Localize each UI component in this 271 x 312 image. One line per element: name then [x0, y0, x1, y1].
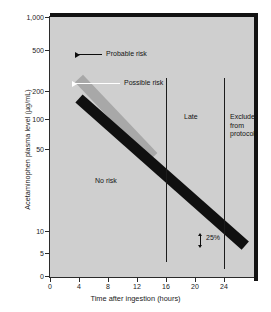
x-tick-mark [108, 278, 109, 282]
probable-risk-band [75, 94, 249, 249]
x-tick-label: 20 [191, 283, 199, 290]
x-tick-label: 12 [133, 283, 141, 290]
no-risk-label: No risk [95, 177, 117, 186]
x-tick-mark [166, 278, 167, 282]
plot-frame-right [254, 13, 258, 281]
y-tick-label: 5 [40, 250, 44, 257]
y-tick-label: 1,000 [26, 14, 44, 21]
y-tick-label-group: 1,000 500 200 100 50 10 5 0 [0, 0, 44, 312]
late-label: Late [184, 113, 198, 122]
x-tick-mark [224, 278, 225, 282]
possible-risk-label: Possible risk [124, 79, 163, 88]
y-tick-label: 10 [36, 228, 44, 235]
percent-25-label: 25% [206, 234, 220, 243]
excluded-from-protocol-label: Excluded from protocol [230, 113, 254, 139]
x-tick-mark [195, 278, 196, 282]
y-tick-label: 50 [36, 146, 44, 153]
x-tick-mark [50, 278, 51, 282]
x-tick-label: 8 [106, 283, 110, 290]
x-tick-mark [137, 278, 138, 282]
acetaminophen-nomogram-figure: Acetaminophen plasma level (µg/mL) 1,000… [0, 0, 271, 312]
y-tick-label: 100 [32, 116, 44, 123]
x-tick-label: 4 [77, 283, 81, 290]
x-tick-label: 16 [162, 283, 170, 290]
y-tick-label: 200 [32, 88, 44, 95]
x-tick-label: 24 [220, 283, 228, 290]
y-tick-label: 500 [32, 47, 44, 54]
probable-risk-label: Probable risk [106, 50, 147, 59]
possible-risk-band [75, 75, 157, 161]
divider-line-24h [224, 78, 225, 269]
x-axis-title: Time after ingestion (hours) [0, 294, 271, 303]
x-tick-mark [79, 278, 80, 282]
divider-line-16h [166, 78, 167, 262]
x-tick-label: 0 [48, 283, 52, 290]
plot-area: Probable risk Possible risk No risk Late… [50, 17, 254, 277]
plot-frame-top [50, 13, 258, 17]
y-tick-label: 0 [40, 273, 44, 280]
